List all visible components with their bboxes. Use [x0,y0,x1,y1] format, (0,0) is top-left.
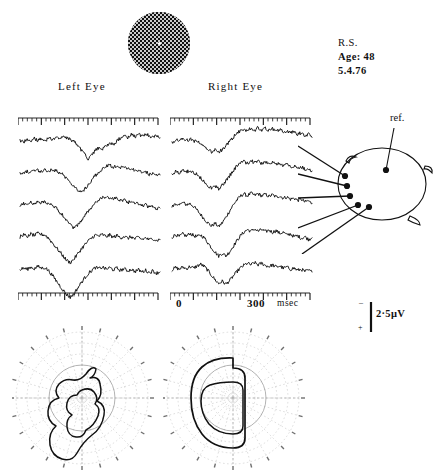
head-electrode-montage: ref. [298,104,437,254]
left-eye-visual-field [12,324,162,472]
perimetry-contours-right [191,358,245,448]
isopter-outer-right [191,358,245,448]
isopter-inner-left [67,389,99,437]
figure-canvas: R.S. Age: 48 5.4.76 Left Eye Right Eye 0… [0,0,437,472]
calibration-value-label: 2·5μV [376,308,405,319]
patient-initials: R.S. [338,36,375,50]
electrode-5 [366,204,372,210]
vep-traces-right-eye [170,108,315,308]
patient-details: R.S. Age: 48 5.4.76 [338,36,375,78]
right-eye-visual-field [163,324,313,472]
recording-date: 5.4.76 [338,64,375,78]
perimetry-grid-left [12,326,154,470]
isopter-inner-right [201,382,243,434]
electrode-4 [355,202,361,208]
vep-traces-left-eye [18,108,163,308]
polarity-positive-label: + [358,324,363,332]
time-axis-start-label: 0 [176,297,182,309]
electrode-2 [344,183,350,189]
patient-age: Age: 48 [338,50,375,64]
perimetry-left-svg [12,324,162,472]
left-eye-label: Left Eye [58,80,106,92]
time-ruler-top-right [170,118,310,125]
amplitude-calibration-bar [358,298,437,344]
lead-line-1 [298,146,345,176]
calibration-svg [358,298,437,344]
perimetry-contours-left [48,368,104,460]
nose-marker-icon [346,156,356,163]
checkerboard-stimulus [128,12,190,74]
reference-label: ref. [390,112,404,123]
time-ruler-top-left [18,118,158,125]
electrode-1 [342,173,348,179]
ear-marker-icon [408,216,420,225]
right-eye-label: Right Eye [208,80,263,92]
left-eye-trace-svg [18,108,163,308]
right-eye-trace-svg [170,108,315,308]
perimetry-right-svg [163,324,313,472]
trace-lines-right [172,126,312,284]
ear-marker-right-icon [424,166,432,173]
trace-lines-left [20,133,160,298]
time-axis-end-label: 300 [247,297,265,309]
time-ruler-bottom-left [18,288,163,306]
lead-line-2 [298,174,347,186]
time-axis-unit-label: msec [277,298,299,308]
polarity-negative-label: – [359,299,363,307]
fixation-point-icon [158,42,161,45]
electrode-3 [347,193,353,199]
lead-line-4 [298,205,358,228]
lead-line-3 [298,196,350,198]
isopter-outer-left [48,368,104,460]
montage-svg: ref. [298,104,437,254]
